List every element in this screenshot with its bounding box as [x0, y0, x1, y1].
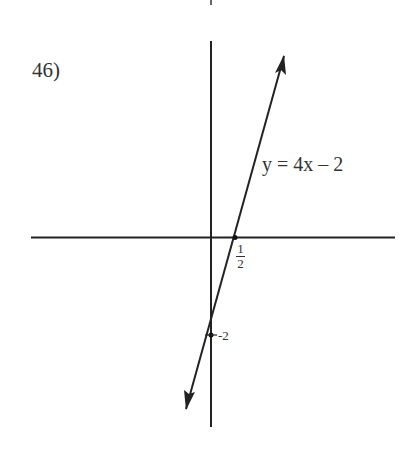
x-intercept-point [233, 235, 238, 240]
fraction-denominator: 2 [237, 258, 244, 270]
graph-canvas [0, 0, 417, 451]
y-intercept-label: -2 [218, 328, 229, 344]
fraction-numerator: 1 [237, 243, 244, 255]
problem-number: 46) [32, 58, 60, 83]
x-intercept-label: 1 2 [236, 243, 245, 270]
function-line [186, 56, 284, 409]
equation-label: y = 4x – 2 [262, 153, 343, 176]
